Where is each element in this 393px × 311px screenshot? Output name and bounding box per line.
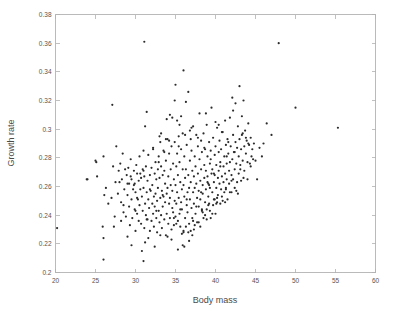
- x-tick-label: 45: [252, 277, 260, 284]
- x-tick-label: 60: [372, 277, 380, 284]
- y-tick-label: 0.28: [39, 154, 52, 161]
- y-tick-label: 0.3: [42, 126, 51, 133]
- x-tick-label: 30: [132, 277, 140, 284]
- scatter-plot: 202530354045505560 0.20.220.240.260.280.…: [0, 0, 393, 311]
- plot-background: [0, 0, 393, 311]
- x-tick-label: 20: [52, 277, 60, 284]
- y-axis-title: Growth rate: [6, 119, 16, 166]
- y-tick-label: 0.34: [39, 68, 52, 75]
- x-tick-label: 25: [92, 277, 100, 284]
- y-tick-label: 0.22: [39, 240, 52, 247]
- y-tick-label: 0.38: [39, 11, 52, 18]
- y-tick-label: 0.32: [39, 97, 52, 104]
- figure-canvas: 202530354045505560 0.20.220.240.260.280.…: [0, 0, 393, 311]
- x-tick-label: 50: [292, 277, 300, 284]
- x-tick-label: 35: [172, 277, 180, 284]
- y-tick-label: 0.36: [39, 40, 52, 47]
- x-axis-title: Body mass: [193, 295, 238, 305]
- y-tick-label: 0.2: [42, 269, 51, 276]
- y-tick-label: 0.26: [39, 183, 52, 190]
- x-tick-label: 40: [212, 277, 220, 284]
- x-tick-label: 55: [332, 277, 340, 284]
- y-tick-label: 0.24: [39, 212, 52, 219]
